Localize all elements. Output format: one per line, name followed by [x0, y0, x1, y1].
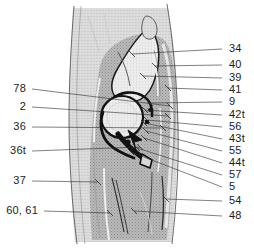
anatomical-figure: 7823636t3760, 61 34403941942t5643t5544t5… [0, 0, 254, 249]
label-44t: 44t [229, 156, 245, 168]
femoral-head [101, 96, 143, 138]
label-5: 5 [229, 180, 235, 192]
label-57: 57 [229, 168, 242, 180]
label-36: 36 [13, 120, 26, 132]
label-54: 54 [229, 194, 242, 206]
label-48: 48 [229, 209, 242, 221]
label-36t: 36t [10, 144, 26, 156]
label-56: 56 [229, 120, 242, 132]
labels-left-column: 7823636t3760, 61 [6, 82, 38, 216]
label-40: 40 [229, 58, 242, 70]
label-37: 37 [13, 174, 26, 186]
label-43t: 43t [229, 132, 245, 144]
label-60--61: 60, 61 [6, 204, 38, 216]
landmark-node-capsule [125, 139, 130, 144]
anatomy-illustration-canvas: 7823636t3760, 61 34403941942t5643t5544t5… [0, 0, 254, 249]
labels-right-column: 34403941942t5643t5544t5755448 [229, 42, 245, 221]
label-55: 55 [229, 144, 242, 156]
label-78: 78 [13, 82, 26, 94]
label-42t: 42t [229, 108, 245, 120]
label-41: 41 [229, 83, 242, 95]
label-9: 9 [229, 95, 235, 107]
label-39: 39 [229, 71, 242, 83]
label-34: 34 [229, 42, 242, 54]
label-2: 2 [20, 100, 26, 112]
